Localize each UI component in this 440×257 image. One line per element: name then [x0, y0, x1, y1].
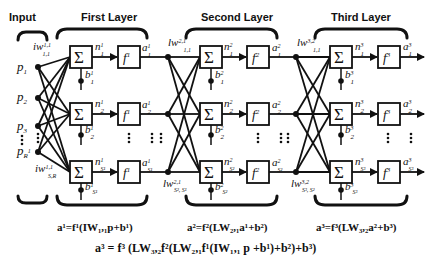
svg-text:a2S²: a2S² — [272, 156, 283, 173]
input-top-brace — [18, 32, 47, 40]
svg-text:Σ: Σ — [204, 105, 214, 124]
svg-text:p1: p1 — [16, 59, 27, 76]
layer2-equation: a²=f²(LW₂,₁a¹+b²) — [187, 221, 268, 234]
svg-text:Σ: Σ — [334, 163, 344, 182]
lw32-weight-connections — [287, 54, 330, 175]
three-layer-network-diagram: Input First Layer Second Layer Third Lay… — [0, 0, 440, 257]
input-weight-connections — [38, 57, 70, 172]
svg-text:n22: n22 — [224, 97, 234, 115]
svg-text:n3S³: n3S³ — [355, 155, 366, 172]
third-layer-bottom-brace — [315, 196, 407, 205]
svg-text:n12: n12 — [95, 97, 105, 115]
svg-text:b21: b21 — [215, 68, 224, 86]
svg-text:a32: a32 — [403, 97, 413, 115]
svg-text:a1S¹: a1S¹ — [142, 156, 153, 173]
lw32-bottom-label: lw3,2S³, S² — [291, 177, 315, 193]
svg-text:n31: n31 — [355, 40, 364, 58]
svg-text:b3S³: b3S³ — [345, 180, 358, 195]
svg-text:p2: p2 — [16, 89, 28, 106]
svg-text:b12: b12 — [85, 123, 95, 141]
svg-text:n21: n21 — [224, 40, 233, 58]
svg-text:Σ: Σ — [74, 105, 84, 124]
input-bottom-brace — [18, 196, 47, 203]
svg-text:b31: b31 — [345, 68, 354, 86]
third-layer: Σ f3 n31 a31 b31 Σ f3 n32 a32 b32 Σ f3 n… — [330, 40, 424, 200]
svg-text:Σ: Σ — [334, 48, 344, 67]
svg-text:n11: n11 — [95, 40, 104, 58]
svg-text:Σ: Σ — [74, 163, 84, 182]
second-layer: Σ f2 n21 a21 b21 Σ f2 n22 a22 b22 Σ f2 n… — [200, 40, 298, 200]
svg-text:a31: a31 — [403, 40, 412, 58]
svg-text:b1S¹: b1S¹ — [85, 180, 98, 195]
svg-text:Σ: Σ — [204, 163, 214, 182]
second-layer-bottom-brace — [186, 196, 277, 205]
second-layer-header: Second Layer — [201, 11, 274, 23]
input-header: Input — [9, 11, 36, 23]
second-layer-top-brace — [186, 29, 277, 38]
svg-text:b22: b22 — [215, 123, 225, 141]
svg-text:b11: b11 — [85, 68, 94, 86]
input-nodes: p1 p2 p3 pR1 — [16, 59, 41, 160]
iw-top-label: iw1,11,1 — [33, 40, 51, 57]
svg-text:Σ: Σ — [74, 48, 84, 67]
first-layer-bottom-brace — [57, 196, 147, 205]
lw21-weight-connections — [160, 54, 200, 175]
third-layer-header: Third Layer — [331, 11, 392, 23]
lw21-bottom-label: lw2,1S², S¹ — [163, 177, 187, 193]
svg-text:b32: b32 — [345, 123, 355, 141]
svg-text:n32: n32 — [355, 97, 365, 115]
overall-equation: a³ = f³ (LW₃,₂f²(LW₂,₁f¹(IW₁,₁ p +b¹)+b²… — [95, 241, 316, 255]
svg-text:a3S³: a3S³ — [403, 155, 414, 172]
lw21-top-label: lw2,11,1 — [168, 36, 191, 53]
svg-text:Σ: Σ — [334, 105, 344, 124]
first-layer-top-brace — [57, 29, 147, 38]
layer3-equation: a³=f³(LW₃,₂a²+b³) — [316, 221, 397, 234]
svg-text:p3: p3 — [16, 118, 28, 135]
svg-text:pR1: pR1 — [16, 143, 31, 160]
svg-text:n2S²: n2S² — [224, 155, 235, 172]
layer1-equation: a¹=f¹(IW₁,₁p+b¹) — [57, 221, 133, 234]
third-layer-top-brace — [315, 29, 407, 38]
svg-text:b2S²: b2S² — [215, 180, 228, 195]
svg-text:n1S¹: n1S¹ — [95, 155, 106, 172]
iw-bottom-label: iw1,1S,R — [35, 162, 56, 179]
lw32-top-label: lw3,21,1 — [297, 36, 320, 53]
svg-text:Σ: Σ — [204, 48, 214, 67]
first-layer-header: First Layer — [81, 11, 138, 23]
first-layer: Σ f1 n11 a11 b11 Σ f1 n12 a12 b12 Σ f1 n… — [70, 40, 170, 200]
